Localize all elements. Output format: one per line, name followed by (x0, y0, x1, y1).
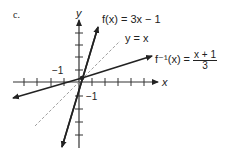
fraction-denominator: 3 (193, 61, 217, 71)
identity-line (35, 41, 120, 126)
f-inverse-fraction: x + 1 3 (193, 50, 217, 71)
f-inverse-label: f⁻¹(x) = x + 1 3 (155, 50, 217, 71)
identity-label: y = x (125, 33, 149, 44)
f-inverse-line (82, 56, 152, 78)
x-tick-label: −1 (86, 92, 97, 102)
x-axis-label: x (162, 77, 168, 88)
f-inverse-lhs: f⁻¹(x) = (155, 53, 190, 65)
y-tick-label: −1 (52, 66, 63, 76)
intersection-point (80, 76, 85, 81)
y-axis-label: y (76, 8, 82, 19)
y-axis (75, 20, 83, 148)
f-label: f(x) = 3x − 1 (102, 14, 161, 25)
x-axis (13, 78, 158, 86)
